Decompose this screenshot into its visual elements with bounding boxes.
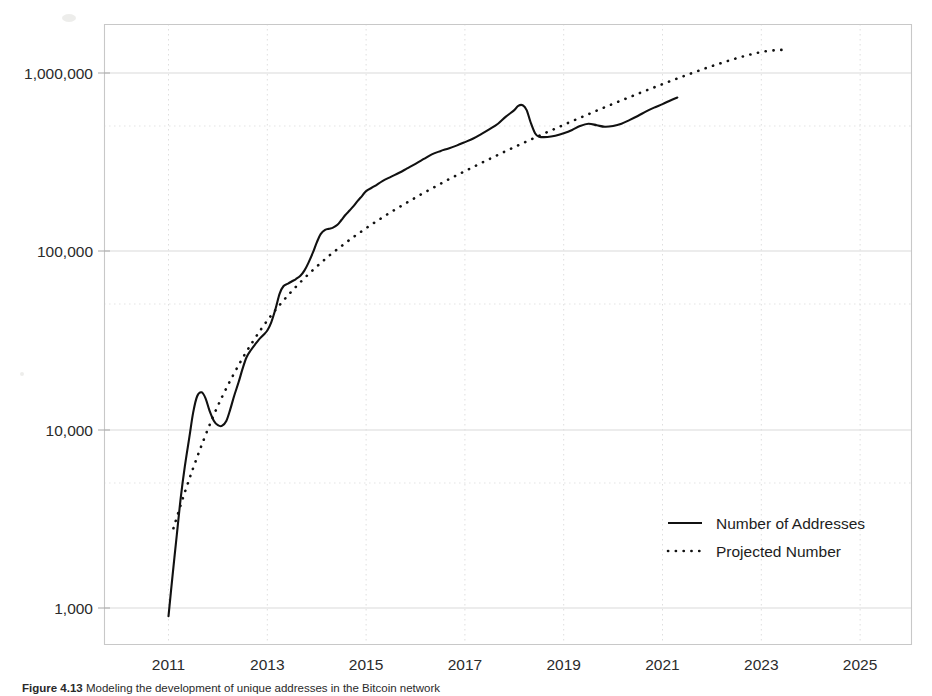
y-tick-label: 1,000 xyxy=(54,600,93,617)
x-tick-label: 2015 xyxy=(349,656,383,673)
y-tick-label: 100,000 xyxy=(37,243,93,260)
x-tick-label: 2019 xyxy=(546,656,580,673)
figure-caption: Figure 4.13 Modeling the development of … xyxy=(22,681,912,695)
x-tick-label: 2011 xyxy=(152,656,185,673)
x-tick-label: 2017 xyxy=(448,656,482,673)
x-tick-labels: 2011 2013 2015 2017 2019 2021 2023 2025 xyxy=(152,656,878,673)
line-chart: 1,000,000 100,000 10,000 1,000 2011 2013… xyxy=(0,0,932,696)
legend-label-projected-number: Projected Number xyxy=(716,543,841,560)
x-tick-label: 2013 xyxy=(250,656,284,673)
legend-label-number-of-addresses: Number of Addresses xyxy=(716,515,865,532)
figure-container: 1,000,000 100,000 10,000 1,000 2011 2013… xyxy=(0,0,932,696)
x-tick-label: 2021 xyxy=(645,656,679,673)
figure-caption-body: Modeling the development of unique addre… xyxy=(86,682,440,694)
x-tick-label: 2023 xyxy=(744,656,778,673)
y-tick-label: 10,000 xyxy=(46,422,94,439)
y-tick-labels: 1,000,000 100,000 10,000 1,000 xyxy=(24,65,93,617)
figure-caption-label: Figure 4.13 xyxy=(22,682,83,694)
x-tick-label: 2025 xyxy=(843,656,877,673)
y-tick-label: 1,000,000 xyxy=(24,65,93,82)
